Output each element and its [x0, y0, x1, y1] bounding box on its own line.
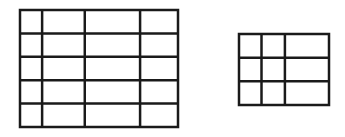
diagram-canvas [0, 0, 345, 137]
grid-frame [20, 10, 178, 127]
large-grid [20, 10, 178, 127]
small-grid [239, 34, 329, 105]
